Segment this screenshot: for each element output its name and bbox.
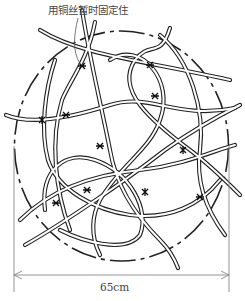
annotation-label: 用铜丝暂时固定住 [48, 2, 128, 17]
tie-icon [96, 143, 104, 149]
tie-icon [142, 188, 148, 196]
tie-icon [83, 187, 91, 193]
tie-icon [151, 93, 159, 99]
wire-armature-diagram [0, 0, 245, 301]
dimension-lines [14, 146, 229, 292]
annotation-leader-line [75, 18, 81, 64]
tie-icon [52, 200, 60, 206]
dimension-label: 65cm [100, 281, 129, 293]
tie-icon [180, 146, 186, 154]
wire-strands [6, 10, 240, 268]
